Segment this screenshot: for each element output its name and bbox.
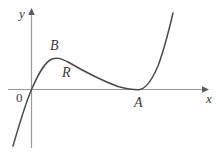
y-axis-label: y <box>19 7 25 20</box>
origin-label: 0 <box>16 91 23 104</box>
cubic-curve <box>13 13 173 146</box>
point-label-a: A <box>134 96 143 110</box>
region-label-r: R <box>62 66 71 80</box>
plot-canvas <box>0 0 219 154</box>
y-axis-arrowhead-icon <box>28 8 35 15</box>
point-label-b: B <box>50 39 59 53</box>
x-axis-label: x <box>206 92 212 105</box>
curve-figure: y x 0 B R A <box>0 0 219 154</box>
